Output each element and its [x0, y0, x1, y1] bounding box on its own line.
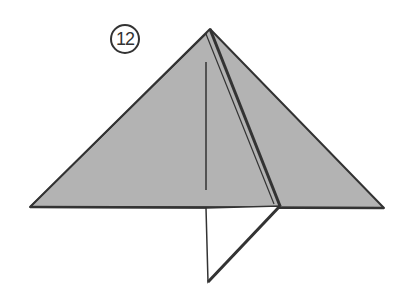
step-number: 12 — [110, 24, 140, 54]
origami-diagram — [0, 0, 399, 303]
folded-triangle — [30, 29, 384, 208]
